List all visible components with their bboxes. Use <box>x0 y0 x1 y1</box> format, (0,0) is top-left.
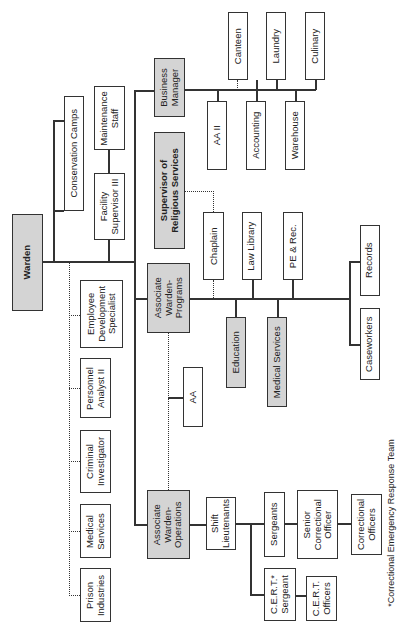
node-warden: Warden <box>12 214 43 311</box>
connector <box>168 397 183 399</box>
connector <box>338 523 351 525</box>
node-medical-services: Medical Services <box>80 504 111 558</box>
node-label: Shift Lieutenants <box>211 499 232 548</box>
node-facility-supervisor: Facility Supervisor III <box>94 173 125 240</box>
node-label: PE & Rec. <box>288 224 299 268</box>
node-laundry: Laundry <box>266 12 286 80</box>
node-label: C.E.R.T. Officers <box>311 581 332 616</box>
node-cert-sergeant: C.E.R.T.* Sergeant <box>264 568 296 621</box>
node-label: Employee Development Specialist <box>86 286 118 342</box>
connector <box>217 89 219 101</box>
node-senior-correctional-officer: Senior Correctional Officer <box>297 490 338 559</box>
node-label: C.E.R.T.* Sergeant <box>270 575 291 614</box>
node-business-manager: Business Manager <box>154 58 185 117</box>
connector <box>250 523 252 595</box>
node-chaplain: Chaplain <box>203 212 224 280</box>
connector <box>315 80 317 90</box>
node-label: Culinary <box>310 29 321 64</box>
node-aa: AA <box>183 367 203 427</box>
footnote-text: *Correctional Emergency Response Team <box>386 439 396 606</box>
node-label: Correctional Officers <box>356 499 377 550</box>
dotted-connector <box>69 262 70 596</box>
node-pe-rec: PE & Rec. <box>283 212 303 280</box>
dotted-connector <box>213 191 214 212</box>
dotted-connector <box>69 531 80 532</box>
node-prison-industries: Prison Industries <box>80 568 111 622</box>
node-label: Caseworkers <box>365 316 376 371</box>
connector <box>42 261 135 263</box>
node-medical-services-programs: Medical Services <box>267 317 287 407</box>
connector <box>134 90 136 525</box>
node-label: Personnel Analyst II <box>85 367 106 410</box>
node-label: Medical Services <box>85 513 106 549</box>
node-aa-ii: AA II <box>207 101 227 170</box>
connector <box>108 150 110 173</box>
node-label: Associate Warden- Programs <box>153 277 185 318</box>
connector <box>349 261 351 345</box>
node-law-library: Law Library <box>242 212 262 280</box>
node-correctional-officers: Correctional Officers <box>351 494 382 555</box>
dotted-connector <box>69 461 80 462</box>
node-personnel-analyst: Personnel Analyst II <box>80 358 111 418</box>
node-shift-lieutenants: Shift Lieutenants <box>206 497 236 550</box>
dotted-connector <box>213 280 214 298</box>
node-label: Facility Supervisor III <box>99 179 120 235</box>
node-label: Warden <box>22 245 33 279</box>
node-label: Warehouse <box>290 111 301 159</box>
node-culinary: Culinary <box>305 12 325 80</box>
node-accounting: Accounting <box>246 101 266 170</box>
node-label: Associate Warden- Operations <box>153 501 185 547</box>
node-label: Medical Services <box>272 326 283 398</box>
connector <box>276 80 278 90</box>
node-label: Records <box>365 243 376 278</box>
node-criminal-investigator: Criminal Investigator <box>80 430 111 493</box>
connector <box>292 280 294 298</box>
connector <box>349 261 360 263</box>
node-label: AA <box>188 391 199 404</box>
connector <box>349 344 360 346</box>
connector <box>295 89 297 101</box>
node-employee-development-specialist: Employee Development Specialist <box>80 280 123 348</box>
node-label: Conservation Camps <box>69 109 80 198</box>
node-label: Criminal Investigator <box>85 437 106 486</box>
node-sergeants: Sergeants <box>264 492 285 557</box>
node-associate-warden-operations: Associate Warden- Operations <box>147 490 190 559</box>
node-label: Chaplain <box>208 227 219 265</box>
connector <box>53 120 55 262</box>
node-canteen: Canteen <box>228 12 248 80</box>
connector <box>134 524 147 526</box>
node-label: Education <box>231 331 242 373</box>
node-label: Business Manager <box>159 68 180 107</box>
connector <box>296 595 306 597</box>
node-label: Senior Correctional Officer <box>302 499 334 550</box>
node-caseworkers: Caseworkers <box>360 308 380 380</box>
node-label: Maintenance Staff <box>99 91 120 145</box>
connector <box>108 240 110 262</box>
connector <box>252 280 254 298</box>
node-conservation-camps: Conservation Camps <box>64 96 84 211</box>
connector <box>250 594 264 596</box>
connector <box>134 298 147 300</box>
node-label: Sergeants <box>269 503 280 546</box>
node-label: Prison Industries <box>85 574 106 615</box>
node-label: AA II <box>212 125 223 145</box>
node-supervisor-religious-services: Supervisor of Religious Services <box>154 132 185 249</box>
node-associate-warden-programs: Associate Warden- Programs <box>147 263 190 333</box>
dotted-connector <box>237 80 238 90</box>
dotted-connector <box>69 315 80 316</box>
node-label: Supervisor of Religious Services <box>159 148 180 232</box>
dotted-connector <box>69 388 80 389</box>
node-label: Canteen <box>233 28 244 64</box>
node-label: Laundry <box>271 29 282 63</box>
connector <box>190 298 350 300</box>
connector <box>285 523 297 525</box>
footnote: *Correctional Emergency Response Team <box>381 420 400 625</box>
node-warehouse: Warehouse <box>285 101 305 170</box>
node-cert-officers: C.E.R.T. Officers <box>306 576 337 621</box>
node-records: Records <box>360 225 380 296</box>
node-label: Law Library <box>247 221 258 270</box>
connector <box>190 524 206 526</box>
node-label: Accounting <box>251 112 262 159</box>
connector <box>235 298 237 317</box>
connector <box>134 90 154 92</box>
